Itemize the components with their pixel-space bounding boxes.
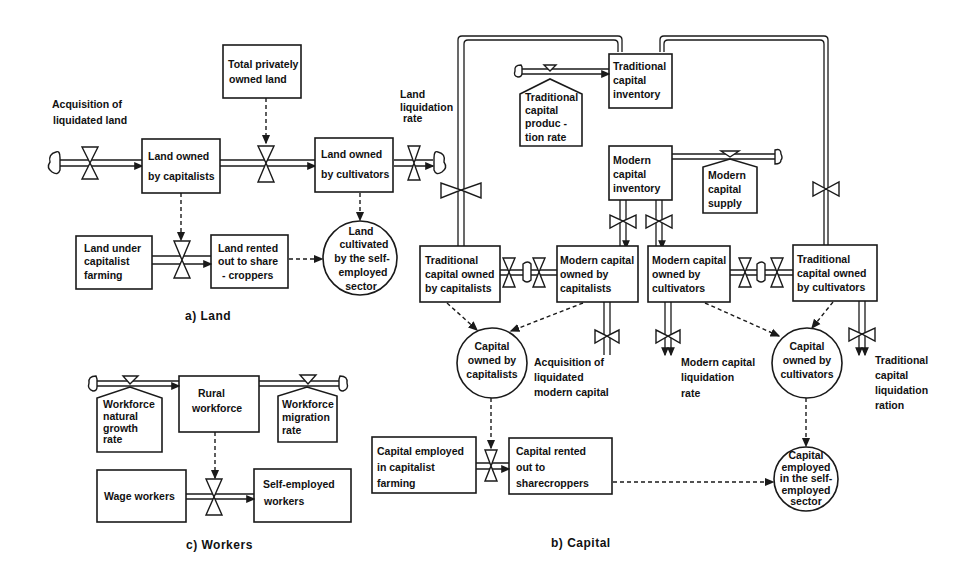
cloud-icon [757, 262, 765, 282]
label-acquisition-liquidated-land: Acquisition ofliquidated land [52, 98, 127, 126]
valve-icon [771, 258, 783, 287]
valve-icon [849, 328, 875, 341]
valve-icon [300, 375, 316, 384]
valve-icon [123, 376, 138, 384]
cloud-sink-icon [434, 152, 446, 174]
panel-workers: Ruralworkforce Workforcenaturalgrowthrat… [89, 375, 352, 552]
cloud-source-icon [48, 152, 60, 174]
caption-land: a) Land [185, 309, 231, 323]
cloud-sink-icon [775, 150, 782, 165]
caption-workers: c) Workers [186, 538, 253, 552]
cloud-icon [523, 262, 531, 282]
caption-capital: b) Capital [551, 536, 611, 550]
svg-text:Wage workers: Wage workers [104, 490, 175, 502]
valve-icon [258, 146, 274, 182]
label-land-liquidation-rate: Landliquidationrate [400, 88, 453, 124]
stock-total-privately-owned-land [223, 45, 301, 98]
valve-icon [813, 182, 839, 196]
valve-icon [174, 241, 190, 278]
stock-land-owned-by-capitalists [142, 139, 220, 193]
valve-icon [82, 147, 98, 179]
stock-land-owned-by-cultivators [315, 138, 393, 192]
valve-icon [544, 65, 556, 71]
valve-icon [485, 450, 497, 481]
valve-icon [646, 215, 672, 228]
valve-icon [610, 215, 636, 228]
valve-icon [739, 258, 751, 287]
svg-text:Moderncapitalsupply: Moderncapitalsupply [708, 169, 746, 209]
valve-icon [503, 258, 515, 287]
valve-icon [533, 258, 545, 287]
panel-land: Land ownedby capitalists Land ownedby cu… [48, 45, 453, 323]
system-dynamics-diagram: Land ownedby capitalists Land ownedby cu… [0, 0, 980, 585]
valve-icon [206, 479, 222, 515]
valve-icon [408, 146, 420, 180]
label-acquisition-liquidated-modern-capital: Acquisition ofliquidatedmodern capital [534, 356, 609, 398]
cloud-source-icon [514, 65, 522, 77]
valve-icon [441, 183, 481, 198]
label-traditional-capital-liquidation-ration: Traditionalcapitalliquidationration [875, 354, 928, 411]
label-modern-capital-liquidation-rate: Modern capitalliquidationrate [681, 356, 755, 399]
valve-icon [595, 330, 619, 343]
cloud-source-icon [89, 376, 98, 391]
svg-text:Land rentedout to share- cropp: Land rentedout to share- croppers [218, 242, 278, 281]
valve-icon [656, 330, 680, 343]
panel-capital: Traditionalcapitalinventory Traditionalc… [372, 36, 928, 550]
cloud-sink-icon [339, 376, 348, 391]
